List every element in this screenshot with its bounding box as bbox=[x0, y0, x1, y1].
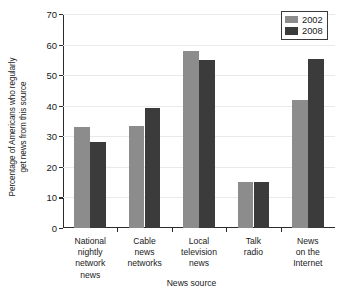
chart-legend: 20022008 bbox=[281, 11, 328, 40]
legend-item-2002: 2002 bbox=[285, 15, 323, 25]
legend-label-2008: 2008 bbox=[302, 26, 323, 36]
y-tick-label: 0 bbox=[52, 223, 57, 234]
bar-2008-0 bbox=[90, 142, 106, 228]
y-tick-label: 50 bbox=[46, 70, 57, 81]
y-tick-label: 60 bbox=[46, 39, 57, 50]
bar-2002-2 bbox=[183, 51, 199, 228]
y-tick-label: 40 bbox=[46, 100, 57, 111]
category-separator bbox=[172, 228, 173, 232]
bar-2002-3 bbox=[238, 182, 254, 228]
x-axis-title: News source bbox=[0, 278, 343, 288]
category-label-4: News on the Internet bbox=[281, 236, 335, 270]
category-separator bbox=[117, 228, 118, 232]
legend-label-2002: 2002 bbox=[302, 15, 323, 25]
y-axis-title-line-1: Percentage of Americans who regularly bbox=[8, 22, 19, 232]
y-tick-label: 20 bbox=[46, 161, 57, 172]
x-axis-title-text: News source bbox=[167, 278, 217, 288]
legend-swatch-2002 bbox=[285, 16, 298, 24]
category-label-2: Local television news bbox=[172, 236, 226, 270]
bar-2008-3 bbox=[254, 182, 270, 228]
bar-chart: Percentage of Americans who regularly ge… bbox=[0, 0, 343, 293]
y-tick-mark bbox=[59, 75, 63, 76]
category-label-3: Talk radio bbox=[226, 236, 280, 258]
category-label-0: National nightly network news bbox=[63, 236, 117, 281]
y-tick-label: 30 bbox=[46, 131, 57, 142]
y-tick-mark bbox=[59, 106, 63, 107]
legend-item-2008: 2008 bbox=[285, 26, 323, 36]
legend-swatch-2008 bbox=[285, 27, 298, 35]
y-tick-mark bbox=[59, 197, 63, 198]
bar-2002-4 bbox=[292, 100, 308, 228]
gridline bbox=[63, 45, 335, 46]
bar-2008-4 bbox=[308, 59, 324, 228]
y-tick-mark bbox=[59, 228, 63, 229]
y-tick-mark bbox=[59, 167, 63, 168]
bar-2008-2 bbox=[199, 60, 215, 228]
category-separator bbox=[281, 228, 282, 232]
y-tick-mark bbox=[59, 14, 63, 15]
y-tick-mark bbox=[59, 45, 63, 46]
bar-2002-0 bbox=[74, 127, 90, 228]
y-axis-title-line-2: get news from this source bbox=[19, 22, 30, 232]
bar-2008-1 bbox=[145, 108, 161, 228]
y-tick-mark bbox=[59, 136, 63, 137]
y-tick-label: 70 bbox=[46, 9, 57, 20]
bar-2002-1 bbox=[129, 126, 145, 228]
y-axis-title: Percentage of Americans who regularly ge… bbox=[8, 22, 38, 232]
category-label-1: Cable news networks bbox=[117, 236, 171, 270]
plot-area: 010203040506070 bbox=[63, 14, 335, 228]
y-axis-line bbox=[63, 14, 64, 228]
y-tick-label: 10 bbox=[46, 192, 57, 203]
category-separator bbox=[226, 228, 227, 232]
